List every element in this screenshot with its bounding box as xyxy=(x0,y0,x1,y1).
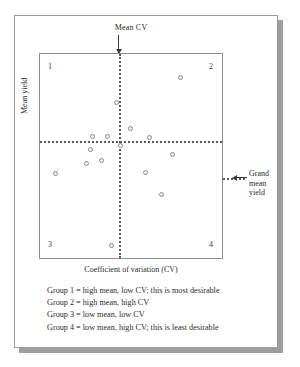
caption-line: Group 1 = high mean, low CV; this is mos… xyxy=(47,285,220,297)
data-point-marker xyxy=(159,192,164,197)
data-point-marker xyxy=(170,152,175,157)
quadrant-label-4: 4 xyxy=(209,241,213,249)
caption-line: Group 3 = low mean, low CV xyxy=(47,309,220,321)
plot-area xyxy=(40,54,222,258)
quadrant-label-2: 2 xyxy=(209,63,213,71)
data-point-marker xyxy=(118,143,123,148)
caption-line: Group 2 = high mean, high CV xyxy=(47,297,220,309)
grand-mean-line-3: yield xyxy=(249,188,269,198)
data-point-marker xyxy=(147,135,152,140)
y-axis-title: Mean yield xyxy=(20,78,29,114)
data-point-marker xyxy=(90,134,95,139)
data-point-marker xyxy=(143,170,148,175)
mean-cv-annotation-label: Mean CV xyxy=(39,23,223,32)
data-point-marker xyxy=(128,126,133,131)
grand-mean-divider-line xyxy=(40,141,222,143)
figure-caption: Group 1 = high mean, low CV; this is mos… xyxy=(47,285,220,334)
data-point-marker xyxy=(99,158,104,163)
grand-mean-yield-annotation: Grand mean yield xyxy=(249,169,269,198)
mean-cv-divider-line xyxy=(119,54,121,258)
mean-cv-arrow-icon xyxy=(118,35,119,53)
figure-card: Mean CV 1 2 3 4 Grand mean yield Mean yi… xyxy=(14,15,278,348)
x-axis-title: Coefficient of variation (CV) xyxy=(39,265,223,274)
data-point-marker xyxy=(105,134,110,139)
data-point-marker xyxy=(84,161,89,166)
grand-mean-arrow-icon xyxy=(237,177,247,178)
quadrant-label-3: 3 xyxy=(48,241,52,249)
plot-frame: 1 2 3 4 xyxy=(39,53,223,259)
data-point-marker xyxy=(109,243,114,248)
quadrant-label-1: 1 xyxy=(48,63,52,71)
caption-line: Group 4 = low mean, high CV; this is lea… xyxy=(47,322,220,334)
grand-mean-line-1: Grand xyxy=(249,169,269,179)
data-point-marker xyxy=(88,147,93,152)
grand-mean-line-2: mean xyxy=(249,179,269,189)
data-point-marker xyxy=(114,100,119,105)
data-point-marker xyxy=(53,171,58,176)
data-point-marker xyxy=(178,75,183,80)
